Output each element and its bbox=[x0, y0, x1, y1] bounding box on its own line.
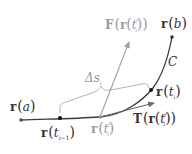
label-force-vector: F(r(t*i)) bbox=[105, 16, 148, 33]
curve-label: C bbox=[168, 55, 177, 69]
point-r-t-i-minus-1 bbox=[58, 116, 62, 120]
arc-length-brace bbox=[60, 84, 149, 113]
label-r-t-i-minus-1: r(ti−1) bbox=[41, 124, 75, 141]
label-r-a: r(a) bbox=[10, 98, 35, 114]
line-integral-diagram: C r(a) r(ti−1) r(t*i) r(ti) r(b) F(r(t*i… bbox=[0, 0, 192, 154]
label-r-t-i: r(ti) bbox=[156, 83, 181, 100]
point-r-t-i-star bbox=[98, 115, 101, 118]
label-r-t-i-star: r(t*i) bbox=[91, 120, 114, 137]
point-r-a bbox=[19, 118, 23, 122]
point-r-b bbox=[170, 35, 174, 39]
label-r-b: r(b) bbox=[161, 15, 187, 31]
label-arc-length: Δsi bbox=[84, 71, 102, 86]
label-tangent-vector: T(r(t*i)) bbox=[133, 110, 176, 127]
force-vector-arrow bbox=[100, 42, 129, 117]
point-r-t-i bbox=[149, 88, 153, 92]
